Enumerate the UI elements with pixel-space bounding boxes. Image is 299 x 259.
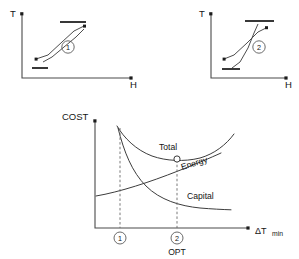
inset-2-endpoint-upper (265, 26, 268, 29)
total-curve-optimum-marker (174, 156, 180, 162)
capital-curve-label: Capital (187, 191, 214, 201)
inset-1-x-axis-label: H (130, 79, 137, 90)
cost-chart-y-axis-label: COST (62, 111, 89, 122)
inset-2-cold-composite-curve (232, 24, 258, 68)
cost-chart-x-axis-label-subscript: min (272, 230, 283, 237)
cost-chart-axes (95, 121, 248, 228)
inset-1-y-axis-label: T (10, 8, 16, 19)
inset-1-hot-composite-curve (36, 26, 84, 59)
inset-2-y-axis-label: T (199, 8, 205, 19)
cost-chart-x-axis-tip (246, 226, 249, 229)
inset-1-y-axis-tip (20, 12, 23, 15)
cost-chart-group: COST ΔT min Total Energy Capital 1 (62, 111, 283, 257)
pinch-cost-figure: 1 T H 2 T H (0, 0, 299, 259)
inset-2-endpoint-lower (223, 58, 226, 61)
inset-2-number-label: 2 (257, 43, 261, 52)
x-axis-point-1-label: 1 (118, 234, 122, 243)
inset-1-endpoint-lower (35, 58, 38, 61)
inset-1-group: 1 T H (10, 8, 137, 90)
opt-label: OPT (168, 247, 186, 257)
total-curve-label: Total (159, 142, 177, 152)
figure-root: 1 T H 2 T H (0, 0, 299, 259)
inset-2-group: 2 T H (199, 8, 292, 90)
inset-1-cold-composite-curve (43, 29, 84, 62)
capital-cost-curve (118, 128, 231, 210)
x-axis-point-2-label: 2 (175, 234, 179, 243)
inset-1-number-label: 1 (66, 43, 70, 52)
inset-1-endpoint-upper (83, 25, 86, 28)
energy-curve-label: Energy (180, 154, 210, 172)
cost-chart-x-axis-label: ΔT (255, 226, 267, 236)
inset-2-y-axis-tip (209, 12, 212, 15)
inset-2-x-axis-label: H (285, 79, 292, 90)
cost-chart-y-axis-tip (93, 119, 96, 122)
